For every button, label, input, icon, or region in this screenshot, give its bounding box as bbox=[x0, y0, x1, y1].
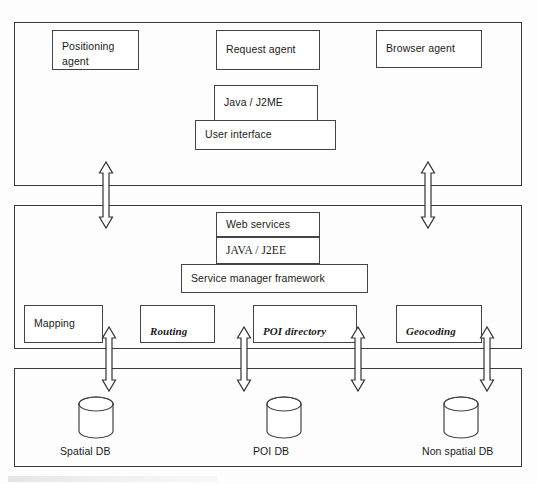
node-web-services[interactable]: Web services bbox=[216, 212, 320, 237]
db-poi[interactable]: POI DB bbox=[253, 395, 343, 457]
node-java-j2ee-label: JAVA / J2EE bbox=[226, 242, 286, 259]
node-browser-agent-label: Browser agent bbox=[386, 41, 455, 56]
node-geocoding-label: Geocoding bbox=[406, 324, 456, 340]
cylinder-icon bbox=[438, 395, 484, 441]
node-poi-directory-label: POI directory bbox=[263, 324, 326, 340]
node-routing-label: Routing bbox=[150, 324, 187, 340]
connector-server-data-3 bbox=[348, 326, 368, 392]
node-routing[interactable]: Routing bbox=[140, 305, 215, 343]
connector-server-data-2 bbox=[234, 326, 254, 392]
node-user-interface[interactable]: User interface bbox=[195, 120, 336, 150]
connector-client-server-left bbox=[96, 161, 116, 229]
node-mapping-label: Mapping bbox=[34, 316, 75, 331]
connector-client-server-right bbox=[418, 161, 438, 229]
node-web-services-label: Web services bbox=[226, 217, 290, 232]
node-positioning-agent[interactable]: Positioning agent bbox=[52, 30, 139, 70]
diagram-canvas: Positioning agent Request agent Browser … bbox=[0, 0, 537, 484]
db-spatial[interactable]: Spatial DB bbox=[58, 395, 158, 457]
node-browser-agent[interactable]: Browser agent bbox=[376, 30, 482, 68]
node-geocoding[interactable]: Geocoding bbox=[396, 305, 482, 343]
node-request-agent[interactable]: Request agent bbox=[216, 30, 320, 70]
db-non-spatial[interactable]: Non spatial DB bbox=[422, 395, 532, 457]
page-artifact bbox=[8, 476, 218, 482]
db-non-spatial-label: Non spatial DB bbox=[422, 445, 532, 457]
db-poi-label: POI DB bbox=[253, 445, 343, 457]
node-mapping[interactable]: Mapping bbox=[24, 305, 103, 343]
node-positioning-agent-label: Positioning agent bbox=[62, 39, 114, 69]
cylinder-icon bbox=[261, 395, 307, 441]
node-service-manager-framework[interactable]: Service manager framework bbox=[181, 264, 368, 293]
node-service-manager-framework-label: Service manager framework bbox=[191, 271, 325, 286]
connector-server-data-4 bbox=[477, 326, 497, 392]
cylinder-icon bbox=[73, 395, 119, 441]
node-java-j2me[interactable]: Java / J2ME bbox=[214, 85, 318, 121]
node-java-j2ee[interactable]: JAVA / J2EE bbox=[216, 237, 320, 264]
node-java-j2me-label: Java / J2ME bbox=[224, 95, 283, 110]
connector-server-data-1 bbox=[99, 326, 119, 392]
node-user-interface-label: User interface bbox=[205, 127, 272, 142]
db-spatial-label: Spatial DB bbox=[60, 445, 158, 457]
node-poi-directory[interactable]: POI directory bbox=[253, 305, 357, 343]
node-request-agent-label: Request agent bbox=[226, 42, 296, 57]
